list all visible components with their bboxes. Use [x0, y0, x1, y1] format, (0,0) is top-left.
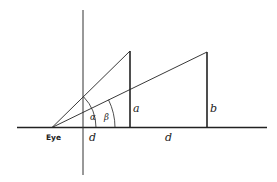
- distance-label-1: d: [89, 131, 96, 144]
- height-label-a: a: [133, 102, 140, 115]
- height-label-b: b: [210, 102, 217, 115]
- viewing-angle-diagram: Eye d d a b α β: [0, 0, 277, 182]
- angle-label-alpha: α: [90, 112, 96, 122]
- eye-label: Eye: [46, 133, 61, 142]
- angle-arc-beta: [109, 100, 116, 128]
- angle-label-beta: β: [103, 112, 109, 122]
- distance-label-2: d: [165, 131, 172, 144]
